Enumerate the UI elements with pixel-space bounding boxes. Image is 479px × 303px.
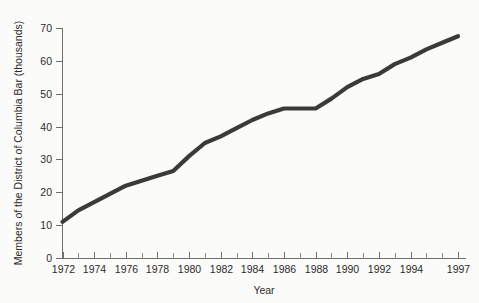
x-tick-label: 1978 <box>146 263 170 275</box>
x-axis-title: Year <box>253 284 275 296</box>
y-tick-label: 30 <box>40 153 52 165</box>
x-tick-label: 1976 <box>115 263 139 275</box>
y-axis-title: Members of the District of Columbia Bar … <box>12 21 24 266</box>
x-tick-label: 1988 <box>305 263 329 275</box>
x-tick-label: 1980 <box>178 263 202 275</box>
y-axis-tick-labels: 010203040506070 <box>40 22 52 264</box>
y-tick-label: 10 <box>40 219 52 231</box>
x-axis-tick-labels: 1972197419761978198019821984198619881990… <box>52 263 471 275</box>
x-tick-label: 1984 <box>241 263 265 275</box>
x-tick-label: 1974 <box>83 263 107 275</box>
y-tick-label: 20 <box>40 186 52 198</box>
line-chart: 010203040506070 197219741976197819801982… <box>0 0 479 303</box>
y-tick-label: 50 <box>40 88 52 100</box>
y-tick-label: 60 <box>40 55 52 67</box>
y-axis-ticks <box>56 29 63 259</box>
x-tick-label: 1994 <box>400 263 424 275</box>
data-series-line <box>63 36 459 222</box>
x-axis-ticks <box>64 252 459 259</box>
x-tick-label: 1982 <box>210 263 234 275</box>
chart-page: 010203040506070 197219741976197819801982… <box>0 0 479 303</box>
x-tick-label: 1997 <box>447 263 471 275</box>
y-tick-label: 40 <box>40 121 52 133</box>
x-tick-label: 1990 <box>336 263 360 275</box>
x-tick-label: 1986 <box>273 263 297 275</box>
y-tick-label: 70 <box>40 22 52 34</box>
x-tick-label: 1972 <box>52 263 76 275</box>
x-axis-minor-ticks <box>79 253 443 259</box>
x-tick-label: 1992 <box>368 263 392 275</box>
